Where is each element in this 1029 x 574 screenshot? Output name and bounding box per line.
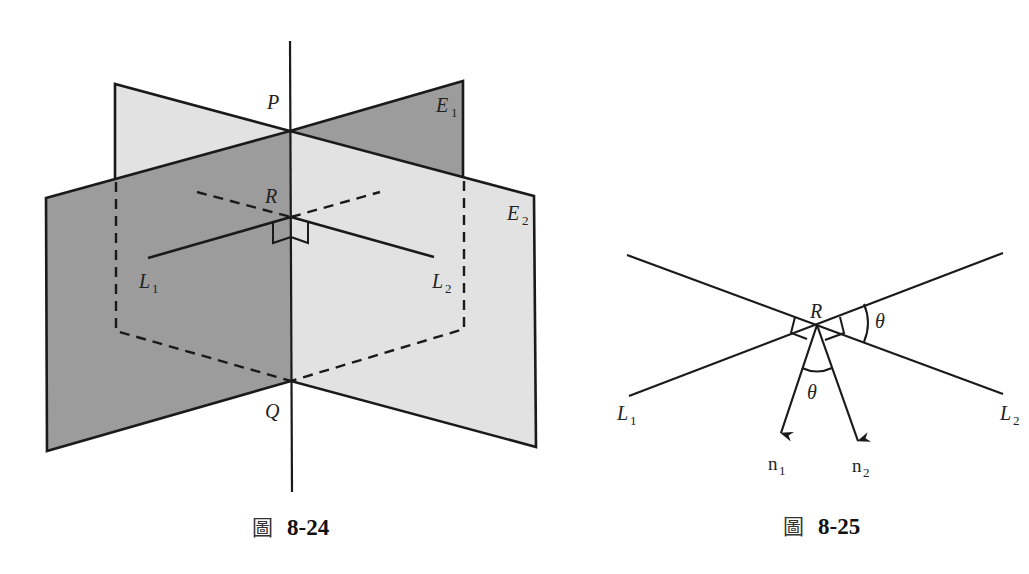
svg-text:圖: 圖 [783,515,804,539]
figure-8-25: R θ θ L 1 L 2 n 1 n 2 圖 8-25 [616,253,1020,539]
diagram-canvas: P R Q E 1 E 2 L 1 L 2 圖 8-24 [0,0,1029,574]
svg-text:n: n [768,453,778,474]
label-r: R [809,300,822,322]
line-l1 [629,253,1003,396]
figure-8-24: P R Q E 1 E 2 L 1 L 2 圖 8-24 [46,41,536,540]
label-n1: n 1 [768,453,786,478]
label-r: R [264,185,277,207]
caption-figure-8-24: 圖 8-24 [252,515,330,540]
svg-text:L: L [138,270,150,292]
svg-text:圖: 圖 [252,516,273,540]
label-theta-right: θ [875,310,885,332]
label-p: P [266,91,279,113]
svg-text:2: 2 [1013,413,1020,428]
svg-text:2: 2 [522,213,529,228]
svg-text:E: E [506,202,519,224]
label-l1: L 1 [616,402,637,428]
angle-arc-bottom [802,368,832,372]
svg-text:L: L [431,270,443,292]
svg-text:L: L [999,402,1011,424]
svg-text:L: L [616,402,628,424]
svg-text:8-25: 8-25 [818,514,860,539]
svg-text:1: 1 [630,413,637,428]
normal-vector-n2 [817,325,858,441]
svg-text:1: 1 [152,281,159,296]
svg-text:2: 2 [863,465,870,480]
label-n2: n 2 [852,455,870,480]
svg-text:2: 2 [445,281,452,296]
normal-vector-n1 [781,325,817,433]
line-pq-axis [290,41,292,492]
svg-text:1: 1 [451,105,458,120]
caption-figure-8-25: 圖 8-25 [783,514,860,539]
plane-e2-right [290,131,536,447]
svg-text:E: E [435,94,448,116]
label-l2: L 2 [999,402,1020,428]
label-q: Q [265,400,280,422]
svg-text:8-24: 8-24 [287,515,330,540]
label-theta-bottom: θ [807,381,817,403]
plane-e2-left [46,131,291,451]
svg-text:n: n [852,455,862,476]
angle-arc-right [864,304,868,342]
svg-text:1: 1 [779,463,786,478]
